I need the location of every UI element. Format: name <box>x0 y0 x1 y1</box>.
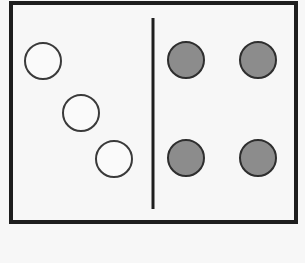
open-circle <box>96 141 132 177</box>
filled-circle <box>240 42 276 78</box>
filled-circle <box>240 140 276 176</box>
filled-circle <box>168 140 204 176</box>
filled-circle <box>168 42 204 78</box>
diagram-canvas <box>0 0 305 263</box>
open-circle <box>63 95 99 131</box>
open-circle <box>25 43 61 79</box>
